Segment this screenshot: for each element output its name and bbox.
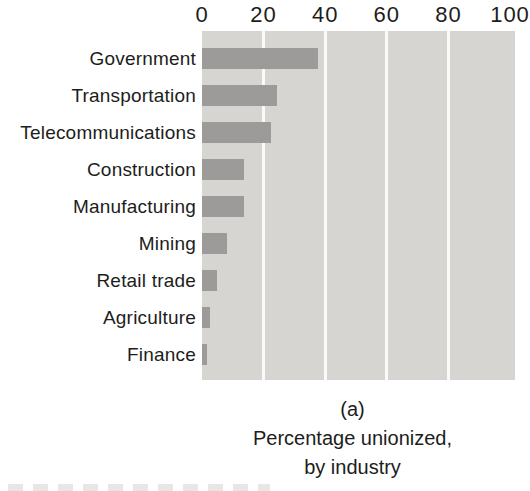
- bar-telecommunications: [202, 122, 271, 143]
- bar-manufacturing: [202, 196, 244, 217]
- gridline: [262, 31, 265, 380]
- bar-retail-trade: [202, 270, 217, 291]
- category-label-agriculture: Agriculture: [103, 307, 196, 328]
- x-axis-tick-label: 100: [490, 2, 530, 28]
- bar-government: [202, 48, 318, 69]
- category-label-manufacturing: Manufacturing: [73, 196, 196, 217]
- caption-panel-label: (a): [196, 395, 509, 424]
- x-axis-tick-label: 0: [195, 2, 208, 28]
- gridline: [385, 31, 388, 380]
- bar-finance: [202, 344, 207, 365]
- cropped-text-edge: [8, 484, 270, 491]
- x-axis-tick-label: 80: [435, 2, 461, 28]
- x-axis-tick-label: 20: [250, 2, 276, 28]
- chart-caption: (a) Percentage unionized, by industry: [196, 395, 509, 482]
- bar-mining: [202, 233, 227, 254]
- category-label-government: Government: [89, 48, 196, 69]
- gridline: [324, 31, 327, 380]
- category-label-finance: Finance: [127, 344, 196, 365]
- category-label-construction: Construction: [87, 159, 196, 180]
- caption-title-line-1: Percentage unionized,: [196, 424, 509, 453]
- bar-agriculture: [202, 307, 210, 328]
- category-label-retail-trade: Retail trade: [96, 270, 196, 291]
- gridline: [447, 31, 450, 380]
- x-axis-tick-label: 40: [312, 2, 338, 28]
- caption-title-line-2: by industry: [196, 453, 509, 482]
- plot-area: [202, 31, 515, 380]
- category-label-mining: Mining: [139, 233, 196, 254]
- category-label-telecommunications: Telecommunications: [20, 122, 196, 143]
- bar-transportation: [202, 85, 277, 106]
- category-label-transportation: Transportation: [71, 85, 196, 106]
- x-axis: 020406080100: [0, 2, 530, 28]
- bar-construction: [202, 159, 244, 180]
- unionization-bar-chart: 020406080100 GovernmentTransportationTel…: [0, 0, 530, 491]
- x-axis-tick-label: 60: [374, 2, 400, 28]
